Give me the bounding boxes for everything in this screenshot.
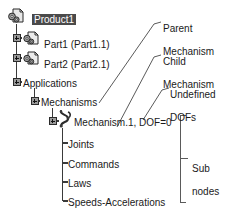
tree-node-joints[interactable]: Joints <box>68 138 94 150</box>
leader-hook-parent-mechanism <box>154 22 161 24</box>
tree-node-product1[interactable]: Product1 <box>32 13 76 25</box>
tree-node-label-applications: Applications <box>23 78 77 89</box>
tree-node-part2[interactable]: Part2 (Part2.1) <box>44 58 110 70</box>
tree-node-label-product1: Product1 <box>32 14 76 25</box>
tree-node-label-laws: Laws <box>68 178 91 189</box>
product-icon <box>7 8 25 24</box>
tree-node-applications[interactable]: Applications <box>23 77 77 89</box>
annotation-undefined-dofs-line2: DOFs <box>170 112 216 124</box>
tree-node-commands[interactable]: Commands <box>68 158 119 170</box>
tree-node-label-speeds-accelerations: Speeds-Accelerations <box>68 197 165 208</box>
tree-node-mechanism1[interactable]: Mechanism.1, DOF=0 <box>74 116 172 128</box>
tree-node-label-commands: Commands <box>68 159 119 170</box>
tree-node-laws[interactable]: Laws <box>68 177 91 189</box>
annotation-sub-nodes-line2: nodes <box>192 186 219 198</box>
tree-node-label-part1: Part1 (Part1.1) <box>44 39 110 50</box>
tree-node-mechanisms[interactable]: Mechanisms <box>41 96 97 108</box>
annotation-parent-mechanism-line1: Parent <box>163 23 214 35</box>
leader-hook-child-mechanism <box>154 55 161 57</box>
annotation-child-mechanism-line1: Child <box>163 56 214 68</box>
part-icon-part1 <box>22 31 40 46</box>
tree-node-label-part2: Part2 (Part2.1) <box>44 59 110 70</box>
annotation-undefined-dofs: Undefined DOFs <box>170 77 216 135</box>
annotation-undefined-dofs-line1: Undefined <box>170 89 216 101</box>
tree-node-label-joints: Joints <box>68 139 94 150</box>
annotation-sub-nodes: Sub nodes <box>192 151 219 209</box>
tree-node-label-mechanisms: Mechanisms <box>41 97 97 108</box>
mechanism-tree-diagram: Product1 Part1 (Part1.1) Part2 (Part2.1)… <box>0 0 231 217</box>
annotation-sub-nodes-line1: Sub <box>192 163 219 175</box>
tree-node-part1[interactable]: Part1 (Part1.1) <box>44 38 110 50</box>
tree-node-label-mechanism1: Mechanism.1, DOF=0 <box>74 117 172 128</box>
mechanism-icon <box>58 110 74 128</box>
part-icon-part2 <box>22 51 40 66</box>
tree-node-speeds-accelerations[interactable]: Speeds-Accelerations <box>68 196 165 208</box>
